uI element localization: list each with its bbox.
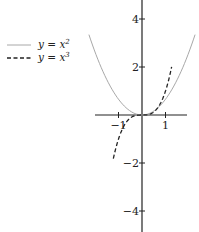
y-tick-label: −2 [123,157,139,170]
legend: y = x2 y = x3 [7,38,70,63]
chart-plot-area: −11 42−2−4 y = x2 y = x3 [0,0,199,232]
legend-label-x-cubed: y = x3 [37,51,70,63]
y-tick-label: 4 [132,13,139,26]
y-tick-label: 2 [132,61,139,74]
y-tick-label: −4 [123,205,139,218]
x-tick-label: 1 [162,119,169,132]
legend-label-x-squared: y = x2 [37,38,70,50]
